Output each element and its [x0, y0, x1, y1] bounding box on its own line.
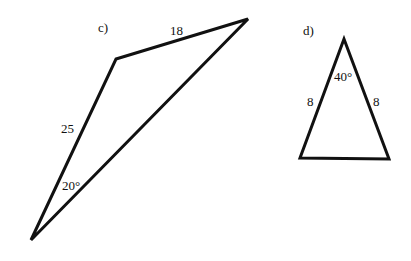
figure-c-label: c) — [98, 21, 108, 34]
angle-d-label: 40° — [334, 70, 352, 83]
side-d-left-length: 8 — [307, 95, 314, 108]
angle-c-label: 20° — [62, 179, 80, 192]
figure-d-label: d) — [303, 24, 314, 37]
side-c-top-length: 18 — [170, 24, 183, 37]
side-c-left-length: 25 — [61, 122, 74, 135]
side-d-right-length: 8 — [373, 95, 380, 108]
